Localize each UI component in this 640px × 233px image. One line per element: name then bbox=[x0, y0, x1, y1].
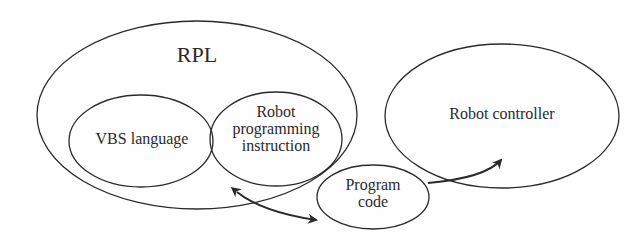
program-code-line1: Program bbox=[333, 177, 413, 194]
vbs-label: VBS language bbox=[82, 131, 202, 148]
diagram-canvas: RPL VBS language Robot programming instr… bbox=[0, 0, 640, 233]
directed-arrow bbox=[428, 160, 501, 183]
robot-programming-line3: instruction bbox=[216, 138, 336, 155]
robot-programming-line2: programming bbox=[216, 121, 336, 138]
rpl-label: RPL bbox=[172, 43, 222, 66]
robot-controller-label: Robot controller bbox=[432, 106, 572, 123]
robot-programming-line1: Robot bbox=[216, 104, 336, 121]
program-code-label: Program code bbox=[333, 177, 413, 211]
robot-programming-label: Robot programming instruction bbox=[216, 104, 336, 154]
program-code-line2: code bbox=[333, 194, 413, 211]
